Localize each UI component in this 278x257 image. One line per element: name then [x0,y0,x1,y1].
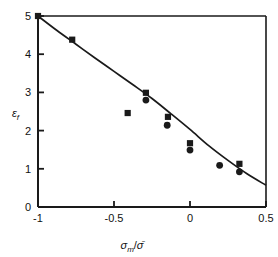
x-tick-label: 0.5 [258,212,273,224]
x-axis-ticks: -1-0.500.5 [33,201,274,224]
x-tick-label: 0 [187,212,193,224]
y-tick-label: 3 [25,86,31,98]
data-point-square [236,161,242,167]
data-point-circle [164,122,171,129]
y-tick-label: 2 [25,125,31,137]
x-tick-label: -0.5 [105,212,124,224]
series-squares [35,13,243,167]
plot-frame [38,16,266,207]
x-axis-title: σm/σ̄ [120,239,145,254]
y-tick-label: 1 [25,163,31,175]
data-point-circle [143,97,150,104]
data-point-square [143,90,149,96]
data-point-circle [216,162,223,169]
data-point-square [69,37,75,43]
x-tick-label: -1 [33,212,43,224]
x-axis-symbol-bar: σ̄ [137,239,146,251]
data-point-square [187,140,193,146]
x-axis-title-text: σm/σ̄ [120,239,145,254]
data-point-square [125,110,131,116]
series-circles [143,97,243,176]
y-axis-subscript: f [17,113,20,122]
data-point-circle [236,168,243,175]
y-tick-label: 4 [25,48,31,60]
scatter-plot: 012345 -1-0.500.5 εf σm/σ̄ [0,0,278,257]
data-point-circle [187,147,194,154]
data-point-square [35,13,41,19]
y-axis-title: εf [12,107,20,122]
y-tick-label: 5 [25,10,31,22]
y-axis-title-text: εf [12,107,20,122]
y-axis-ticks: 012345 [25,10,44,213]
data-point-square [165,114,171,120]
figure-container: 012345 -1-0.500.5 εf σm/σ̄ [0,0,278,257]
y-tick-label: 0 [25,201,31,213]
